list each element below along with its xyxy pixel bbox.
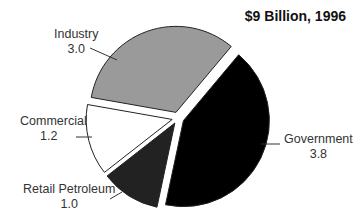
chart-title: $9 Billion, 1996 [245, 8, 346, 24]
label-government: Government 3.8 [284, 132, 353, 162]
label-commercial: Commercial 1.2 [20, 114, 87, 144]
label-industry: Industry 3.0 [54, 27, 98, 57]
label-retail-petroleum: Retail Petroleum 1.0 [23, 182, 115, 212]
